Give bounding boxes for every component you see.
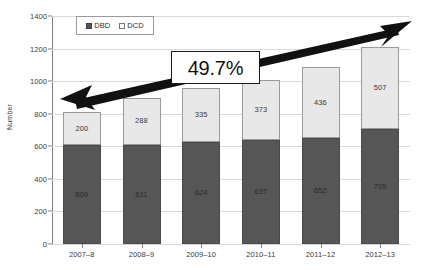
y-axis-tick-mark: [48, 178, 52, 179]
grid-line: [52, 114, 410, 115]
bar-value-label: 373: [254, 106, 267, 114]
bar-group[interactable]: 705507: [361, 16, 399, 244]
grid-line: [52, 49, 410, 50]
y-axis-tick-mark: [48, 211, 52, 212]
x-axis-tick-mark: [261, 244, 262, 248]
bar-value-label: 436: [314, 99, 327, 107]
grid-line: [52, 244, 410, 245]
chart-container: Number 0200400600800100012001400 6092006…: [0, 0, 423, 270]
bar-segment-dbd[interactable]: 611: [123, 145, 161, 245]
bar-value-label: 611: [135, 191, 147, 199]
grid-line: [52, 146, 410, 147]
x-axis-tick-label: 2012–13: [365, 250, 395, 259]
x-axis-tick-mark: [321, 244, 322, 248]
bar-segment-dcd[interactable]: 335: [182, 88, 220, 143]
bar-segment-dbd[interactable]: 705: [361, 129, 399, 244]
bar-segment-dcd[interactable]: 507: [361, 47, 399, 130]
chart-legend: DBD DCD: [76, 16, 154, 35]
x-axis-tick-label: 2011–12: [306, 250, 335, 259]
y-axis-tick-mark: [48, 113, 52, 114]
light-square-icon: [119, 23, 125, 29]
bar-segment-dbd[interactable]: 637: [242, 140, 280, 244]
x-axis-tick-mark: [82, 244, 83, 248]
bar-segment-dcd[interactable]: 288: [123, 98, 161, 145]
bar-group[interactable]: 652436: [302, 16, 340, 244]
x-axis-tick-label: 2009–10: [186, 250, 216, 259]
bar-segment-dcd[interactable]: 200: [63, 112, 101, 145]
legend-item-dbd: DBD: [86, 21, 110, 30]
legend-label-dbd: DBD: [94, 21, 110, 30]
bar-segment-dcd[interactable]: 373: [242, 80, 280, 141]
bar-value-label: 609: [75, 191, 88, 199]
bar-value-label: 652: [314, 187, 327, 195]
bar-value-label: 507: [374, 84, 387, 92]
y-axis-title: Number: [6, 104, 13, 130]
grid-line: [52, 211, 410, 212]
grid-line: [52, 179, 410, 180]
bar-value-label: 705: [374, 183, 387, 191]
x-axis-tick-label: 2010–11: [246, 250, 275, 259]
y-axis-tick-mark: [48, 146, 52, 147]
bar-value-label: 200: [75, 125, 88, 133]
bar-value-label: 637: [254, 188, 267, 196]
bar-segment-dbd[interactable]: 609: [63, 145, 101, 244]
legend-label-dcd: DCD: [127, 21, 144, 30]
bar-group[interactable]: 611288: [123, 16, 161, 244]
percentage-callout: 49.7%: [171, 51, 260, 84]
y-axis-tick-mark: [48, 81, 52, 82]
bar-segment-dcd[interactable]: 436: [302, 67, 340, 138]
dark-square-icon: [86, 23, 92, 29]
bar-value-label: 624: [195, 189, 208, 197]
callout-value: 49.7%: [188, 58, 244, 78]
x-axis-tick-mark: [142, 244, 143, 248]
bar-value-label: 335: [195, 111, 208, 119]
bar-group[interactable]: 609200: [63, 16, 101, 244]
legend-item-dcd: DCD: [119, 21, 144, 30]
y-axis-tick-mark: [48, 244, 52, 245]
x-axis-tick-mark: [201, 244, 202, 248]
bar-value-label: 288: [135, 117, 148, 125]
y-axis-tick-mark: [48, 16, 52, 17]
bar-segment-dbd[interactable]: 624: [182, 142, 220, 244]
x-axis-tick-label: 2007–8: [69, 250, 95, 259]
x-axis-tick-mark: [380, 244, 381, 248]
x-axis-tick-label: 2008–9: [129, 250, 155, 259]
y-axis-tick-mark: [48, 48, 52, 49]
bar-segment-dbd[interactable]: 652: [302, 138, 340, 244]
